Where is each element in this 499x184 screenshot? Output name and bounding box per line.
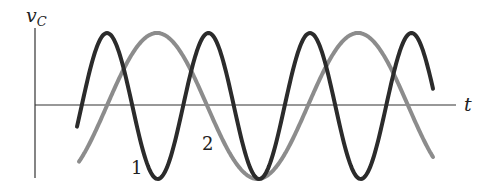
curve-1-label: 1	[131, 157, 142, 178]
y-axis-label: vC	[26, 4, 47, 29]
graph: vC t 1 2	[0, 0, 499, 184]
x-axis-label: t	[464, 93, 472, 115]
curve-2-label: 2	[202, 133, 213, 154]
